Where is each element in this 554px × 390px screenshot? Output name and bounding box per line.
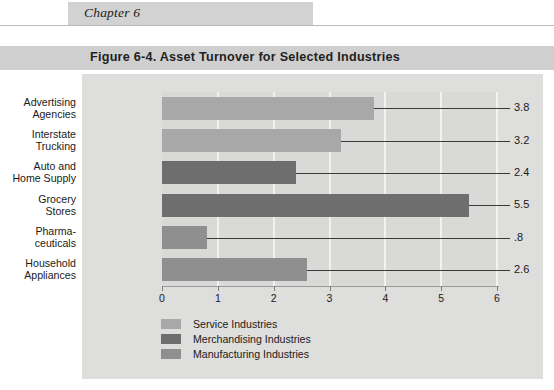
x-axis-line [162,286,499,287]
bar [162,258,307,281]
category-label-line: Advertising [24,96,76,108]
category-label: GroceryStores [38,193,76,217]
x-axis-tick-label: 3 [320,292,340,304]
value-label: 2.4 [514,166,529,178]
category-label-line: Auto and [12,160,76,172]
category-label-line: Household [24,257,76,269]
category-label: HouseholdAppliances [24,257,76,281]
x-axis-tick-label: 6 [487,292,507,304]
value-label: 3.8 [514,101,529,113]
bar [162,226,207,249]
running-head-rule [0,25,554,26]
x-axis-tick-label: 1 [208,292,228,304]
legend-label: Merchandising Industries [193,333,311,345]
x-axis-tick-label: 0 [152,292,172,304]
gridline [440,92,442,286]
category-label: Auto andHome Supply [12,160,76,184]
value-label: 3.2 [514,134,529,146]
x-axis-tick [162,286,163,291]
value-leader-line [374,108,510,109]
legend-item: Service Industries [161,316,311,331]
value-leader-line [469,205,510,206]
bar [162,161,296,184]
value-leader-line [207,238,510,239]
value-label: 5.5 [514,198,529,210]
gridline [384,92,386,286]
x-axis-tick [441,286,442,291]
x-axis-tick-label: 5 [431,292,451,304]
category-label-line: Appliances [24,269,76,281]
x-axis-tick [218,286,219,291]
legend-swatch [161,319,181,329]
category-label: AdvertisingAgencies [24,96,76,120]
plot-area [162,92,497,286]
category-label-line: Stores [38,205,76,217]
category-label-line: Pharma- [35,225,76,237]
gridline [273,92,275,286]
category-label-line: Grocery [38,193,76,205]
category-label-line: Trucking [32,140,76,152]
category-label-line: Home Supply [12,172,76,184]
legend-item: Merchandising Industries [161,331,311,346]
x-axis-tick [497,286,498,291]
legend-label: Manufacturing Industries [193,348,309,360]
x-axis-tick-label: 2 [264,292,284,304]
legend-swatch [161,349,181,359]
value-label: 2.6 [514,263,529,275]
legend-swatch [161,334,181,344]
value-leader-line [341,141,510,142]
x-axis-tick [385,286,386,291]
bar [162,194,469,217]
category-label: InterstateTrucking [32,128,76,152]
x-axis-tick-label: 4 [375,292,395,304]
legend-item: Manufacturing Industries [161,346,311,361]
value-leader-line [296,173,510,174]
legend-label: Service Industries [193,318,277,330]
bar [162,129,341,152]
gridline [496,92,498,286]
x-axis-tick [330,286,331,291]
category-label-line: Interstate [32,128,76,140]
chart-legend: Service IndustriesMerchandising Industri… [161,316,311,361]
gridline [329,92,331,286]
category-label-line: Agencies [24,108,76,120]
value-leader-line [307,270,510,271]
x-axis-tick [274,286,275,291]
value-label: .8 [514,231,523,243]
gridline [217,92,219,286]
figure-title: Figure 6-4. Asset Turnover for Selected … [90,50,400,64]
category-label: Pharma-ceuticals [35,225,76,249]
running-head-text: Chapter 6 [84,5,140,21]
category-label-line: ceuticals [35,237,76,249]
bar [162,97,374,120]
